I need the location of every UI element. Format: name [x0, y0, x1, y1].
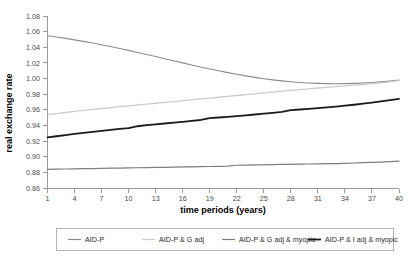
y-axis-title-text: real exchange rate	[4, 73, 14, 152]
x-axis-title-text: time periods (years)	[180, 205, 266, 215]
x-tick-label: 25	[260, 194, 268, 203]
series-line	[48, 36, 400, 84]
x-tick-label: 31	[314, 194, 322, 203]
x-axis-ticks: 1471013161922252831343740	[46, 189, 404, 204]
x-tick-label: 22	[233, 194, 241, 203]
y-tick-label: 1.06	[26, 27, 40, 36]
x-tick-label: 19	[206, 194, 214, 203]
legend-label: AID-P & I adj & myopic	[325, 235, 398, 244]
line-chart: real exchange rate 0.860.880.900.920.940…	[0, 0, 411, 258]
y-axis-title: real exchange rate	[4, 73, 14, 152]
y-tick-label: 0.86	[26, 184, 40, 193]
legend-label: AID-P	[85, 235, 104, 244]
x-tick-label: 4	[73, 194, 77, 203]
y-tick-label: 0.92	[26, 137, 40, 146]
y-tick-label: 0.96	[26, 105, 40, 114]
y-tick-label: 1.08	[26, 12, 40, 21]
series-line	[48, 161, 400, 169]
series-line	[48, 99, 400, 138]
x-tick-label: 40	[395, 194, 403, 203]
y-tick-label: 0.90	[26, 152, 40, 161]
x-tick-label: 7	[100, 194, 104, 203]
y-tick-label: 1.02	[26, 59, 40, 68]
y-tick-label: 0.88	[26, 168, 40, 177]
y-tick-label: 1.00	[26, 74, 40, 83]
x-tick-label: 10	[125, 194, 133, 203]
legend-label: AID-P & G adj	[159, 235, 204, 244]
y-axis-ticks: 0.860.880.900.920.940.960.981.001.021.04…	[26, 12, 48, 193]
y-tick-label: 0.94	[26, 121, 40, 130]
chart-legend: AID-PAID-P & G adjAID-P & G adj & myopic…	[57, 229, 399, 251]
series-line	[48, 81, 400, 115]
y-tick-label: 1.04	[26, 43, 40, 52]
series-lines	[48, 36, 400, 170]
x-tick-label: 37	[368, 194, 376, 203]
x-tick-label: 13	[152, 194, 160, 203]
x-tick-label: 1	[46, 194, 50, 203]
x-tick-label: 28	[287, 194, 295, 203]
legend-label: AID-P & G adj & myopic	[239, 235, 316, 244]
x-tick-label: 34	[341, 194, 349, 203]
x-tick-label: 16	[179, 194, 187, 203]
y-tick-label: 0.98	[26, 90, 40, 99]
chart-figure: real exchange rate 0.860.880.900.920.940…	[0, 0, 411, 258]
